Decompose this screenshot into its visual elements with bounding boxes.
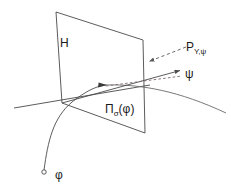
label-tangent-vector-psi: ψ xyxy=(185,65,194,81)
label-projector-P-base: P xyxy=(186,40,194,54)
P-dashed-pointer xyxy=(149,47,186,62)
label-hyperplane-H: H xyxy=(60,34,69,50)
label-curve-phi: φ xyxy=(55,166,63,182)
figure-root: H PY,ψ ψ Πσ(φ) φ xyxy=(0,0,231,190)
label-projection-pi-base: Π xyxy=(105,102,114,116)
label-hyperplane-H-base: H xyxy=(60,36,69,50)
label-projection-pi-sigma-phi: Πσ(φ) xyxy=(105,100,134,118)
label-curve-phi-base: φ xyxy=(55,168,63,182)
label-projector-P: PY,ψ xyxy=(186,38,206,56)
label-tangent-vector-psi-base: ψ xyxy=(185,67,194,81)
diagram-canvas xyxy=(0,0,231,190)
phi-endpoint-circle xyxy=(42,170,46,174)
label-projector-P-subscript: Y,ψ xyxy=(194,47,206,56)
label-projection-pi-argument: (φ) xyxy=(119,102,135,116)
